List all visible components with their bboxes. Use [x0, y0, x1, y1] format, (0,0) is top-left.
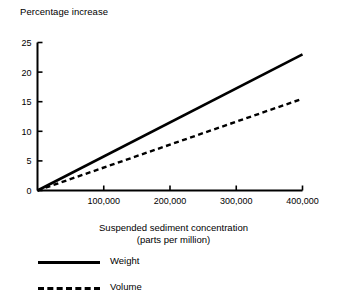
legend-label-volume: Volume — [110, 281, 142, 292]
x-axis-title-line-1: Suspended sediment concentration — [99, 222, 248, 233]
legend-item-weight: Weight — [30, 252, 230, 278]
x-axis-tick-label: 200,000 — [154, 196, 187, 206]
legend-swatch-dashed-line-icon — [38, 287, 100, 290]
legend-item-volume: Volume — [30, 278, 230, 304]
series-line-volume — [38, 99, 303, 191]
x-axis-title-line-2: (parts per million) — [0, 234, 347, 246]
x-axis-tick-label: 100,000 — [87, 196, 120, 206]
y-axis-tick-label: 10 — [21, 127, 31, 137]
y-axis-tick-label: 0 — [26, 186, 31, 196]
x-axis-tick-label: 400,000 — [286, 196, 319, 206]
y-axis-tick-label: 20 — [21, 68, 31, 78]
y-axis-tick-label: 25 — [21, 38, 31, 48]
x-axis-tick-label: 300,000 — [220, 196, 253, 206]
x-axis-title: Suspended sediment concentration (parts … — [0, 222, 347, 246]
chart-page: Percentage increase 0510152025100,000200… — [0, 0, 347, 308]
chart-legend: Weight Volume — [30, 252, 230, 304]
legend-label-weight: Weight — [110, 255, 139, 266]
y-axis-tick-label: 5 — [26, 156, 31, 166]
legend-swatch-solid-line-icon — [38, 261, 100, 264]
series-line-weight — [38, 54, 303, 190]
y-axis-tick-label: 15 — [21, 97, 31, 107]
